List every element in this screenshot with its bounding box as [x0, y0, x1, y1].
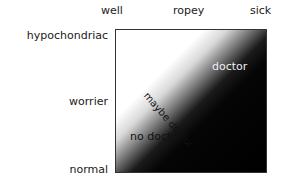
decision-gradient-box: doctor maybe doctor no doctor [115, 29, 267, 173]
y-label-normal: normal [69, 163, 108, 176]
region-label-doctor: doctor [212, 60, 247, 73]
x-label-well: well [101, 4, 123, 17]
x-label-ropey: ropey [173, 4, 204, 17]
y-label-worrier: worrier [69, 95, 108, 108]
x-label-sick: sick [250, 4, 271, 17]
y-label-hypochondriac: hypochondriac [27, 29, 108, 42]
region-label-no-doctor: no doctor [130, 130, 183, 143]
